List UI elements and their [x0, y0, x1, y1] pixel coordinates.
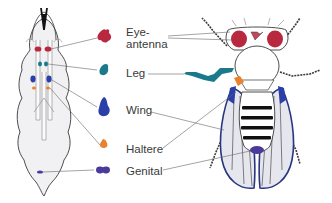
label-eye-antenna: Eye- antenna	[126, 26, 168, 50]
larva-wing-disc-left	[30, 76, 35, 83]
adult-fly	[184, 18, 320, 188]
wing-disc	[98, 97, 109, 116]
head-bristles	[232, 18, 284, 26]
compound-eye-left	[231, 31, 247, 48]
mid-leg-left-colored	[184, 68, 234, 82]
eye-antenna-disc	[97, 29, 111, 42]
central-tube	[42, 72, 46, 140]
label-wing: Wing	[126, 104, 152, 116]
larva-leg-disc-left	[38, 62, 42, 67]
larva-haltere-disc-right	[46, 86, 50, 89]
larva-genital-disc	[37, 170, 43, 173]
adult-genitalia	[250, 146, 264, 154]
larva-eye-antenna-disc-left	[35, 46, 42, 51]
label-leg: Leg	[126, 67, 145, 79]
larva-wing-disc-right	[46, 76, 51, 83]
mid-leg-right	[280, 70, 320, 76]
larva	[17, 8, 71, 196]
label-genital: Genital	[126, 165, 162, 177]
genital-disc-right-lobe	[102, 167, 110, 174]
larva-eye-antenna-disc-right	[45, 46, 52, 51]
label-eye-antenna-line1: Eye-	[126, 26, 168, 38]
fly-abdomen	[239, 92, 275, 152]
haltere-disc	[100, 139, 107, 148]
scutellum	[240, 80, 274, 90]
label-eye-antenna-line2: antenna	[126, 38, 168, 50]
fore-leg-left	[202, 18, 227, 46]
label-haltere: Haltere	[126, 143, 163, 155]
larva-haltere-disc-left	[32, 86, 36, 89]
leg-disc	[99, 64, 108, 75]
compound-eye-right	[267, 31, 283, 48]
larva-leg-disc-right	[44, 62, 48, 67]
isolated-discs	[96, 29, 111, 173]
